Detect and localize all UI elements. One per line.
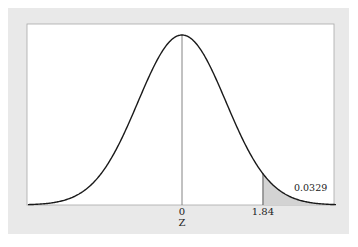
plot-area — [27, 24, 334, 205]
x-tick-label-0: 0 — [179, 206, 185, 217]
x-tick-label-1-84: 1.84 — [252, 206, 274, 217]
tail-area-annotation: 0.0329 — [294, 182, 327, 193]
x-axis-label: Z — [179, 217, 186, 228]
